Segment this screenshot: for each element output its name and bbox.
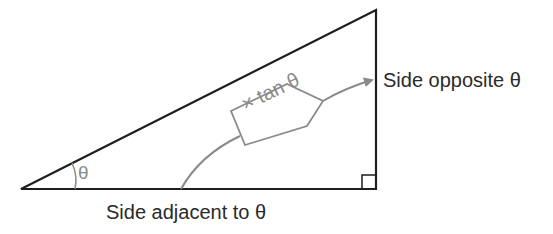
angle-arc (72, 163, 76, 189)
side-adjacent-label: Side adjacent to θ (106, 202, 266, 222)
right-angle-marker (362, 175, 376, 189)
arrow-curve-lower (181, 136, 240, 189)
angle-theta-label: θ (78, 163, 89, 182)
right-triangle (21, 10, 376, 189)
diagram-canvas: θ × tan θ Side opposite θ Side adjacent … (0, 0, 553, 234)
side-opposite-label: Side opposite θ (383, 70, 521, 90)
triangle-diagram-svg (0, 0, 553, 234)
arrow-curve-upper (323, 80, 372, 101)
